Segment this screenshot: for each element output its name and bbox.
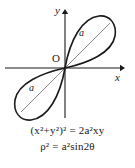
polar-equation: ρ² = a²sin2θ [0,140,135,152]
x-axis-label: x [115,72,120,83]
lower-lobe-a-label: a [29,83,34,93]
x-axis-arrow-icon [120,65,125,71]
y-axis-arrow-icon [62,9,68,14]
equation-block: (x²+y²)² = 2a²xy ρ² = a²sin2θ [0,124,135,152]
lemniscate-plot [0,0,135,125]
lemniscate-figure: y x O a a (x²+y²)² = 2a²xy ρ² = a²sin2θ [0,0,135,168]
cartesian-equation: (x²+y²)² = 2a²xy [0,124,135,136]
origin-label: O [52,53,60,64]
upper-lobe-a-label: a [79,28,84,38]
y-axis-label: y [55,5,60,16]
